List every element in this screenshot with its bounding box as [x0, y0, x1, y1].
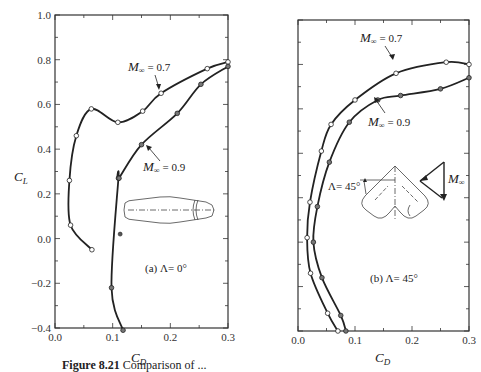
svg-text:M∞= 0.9: M∞= 0.9: [142, 159, 186, 175]
data-point: [467, 62, 472, 67]
data-point: [336, 329, 341, 334]
data-point: [344, 329, 349, 334]
data-point: [74, 133, 79, 138]
data-point: [398, 93, 403, 98]
freestream-mach-label: M∞: [447, 171, 465, 187]
data-point: [139, 142, 144, 147]
x-tick-label: 0.0: [291, 334, 305, 346]
series-line-m09: [111, 66, 228, 330]
data-point: [327, 160, 332, 165]
svg-text:M∞= 0.9: M∞= 0.9: [367, 114, 411, 130]
data-point: [320, 275, 325, 280]
y-tick-label: −0.2: [31, 277, 51, 289]
figure-caption: Figure 8.21 Comparison of ...: [62, 358, 206, 372]
data-point: [353, 98, 358, 103]
legend-label-m07-b: M∞= 0.7: [359, 30, 403, 60]
legend-label-m07-a: M∞= 0.7: [127, 59, 171, 90]
data-point: [205, 66, 210, 71]
unswept-wing-icon: [124, 197, 215, 224]
x-tick-label: 0.2: [163, 331, 177, 343]
data-point: [90, 247, 95, 252]
data-point: [159, 91, 164, 96]
data-point: [117, 176, 122, 181]
data-point: [325, 311, 330, 316]
data-point: [308, 271, 313, 276]
legend-label-m09-a: M∞= 0.9: [142, 145, 186, 175]
x-tick-label: 0.2: [405, 334, 419, 346]
svg-text:Λ= 45°: Λ= 45°: [328, 180, 360, 192]
data-point: [308, 200, 313, 205]
data-point: [315, 204, 320, 209]
data-point: [109, 285, 114, 290]
data-point: [305, 235, 310, 240]
data-point: [467, 75, 472, 80]
data-point: [121, 328, 126, 333]
y-tick-label: 1.0: [37, 9, 51, 21]
y-tick-label: 0.0: [37, 233, 51, 245]
y-tick-label: 0.6: [37, 98, 51, 110]
x-tick-label: 0.3: [462, 334, 476, 346]
panel-label-a: (a) Λ= 0°: [145, 262, 187, 275]
x-tick-label: 0.3: [221, 331, 235, 343]
data-point: [394, 71, 399, 76]
data-point: [226, 64, 231, 69]
data-point: [140, 109, 145, 114]
y-tick-label: −0.4: [31, 322, 51, 334]
y-tick-label: 0.4: [37, 143, 51, 155]
y-axis-label-cl: CL: [14, 169, 28, 186]
data-point: [438, 87, 443, 92]
panel-label-b: (b) Λ= 45°: [370, 272, 418, 285]
data-point: [199, 82, 204, 87]
data-point: [311, 240, 316, 245]
figure-canvas: 0.00.10.20.31.00.80.60.40.20.0−0.2−0.4 0…: [0, 0, 481, 372]
data-point: [67, 178, 72, 183]
svg-text:M∞= 0.7: M∞= 0.7: [359, 30, 403, 46]
x-axis-label-cd-b: CD: [375, 350, 391, 367]
isolated-data-point: [118, 232, 122, 236]
svg-text:M∞= 0.7: M∞= 0.7: [127, 59, 171, 75]
data-point: [338, 313, 343, 318]
x-tick-label: 0.1: [106, 331, 120, 343]
plot-frame: [55, 15, 228, 328]
data-point: [329, 122, 334, 127]
data-point: [175, 111, 180, 116]
data-point: [116, 120, 121, 125]
data-point: [68, 223, 73, 228]
swept-wing-icon: [360, 166, 428, 220]
data-point: [444, 60, 449, 65]
data-point: [347, 120, 352, 125]
data-point: [89, 107, 94, 112]
data-point: [319, 149, 324, 154]
x-tick-label: 0.1: [348, 334, 362, 346]
data-point: [226, 60, 231, 65]
y-tick-label: 0.8: [37, 54, 51, 66]
y-tick-label: 0.2: [37, 188, 51, 200]
